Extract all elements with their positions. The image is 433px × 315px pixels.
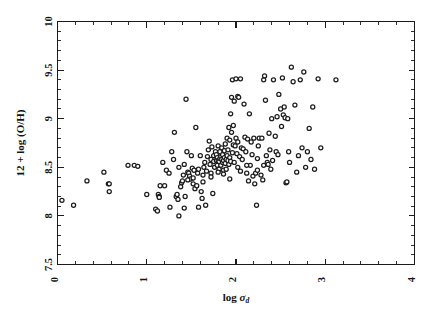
data-point <box>236 165 240 169</box>
y-tick-label: 8.5 <box>43 161 54 174</box>
data-point <box>260 136 264 140</box>
data-point <box>221 172 225 176</box>
data-point <box>158 184 162 188</box>
data-point <box>238 169 242 173</box>
data-point <box>279 124 283 128</box>
data-point <box>183 194 187 198</box>
data-point <box>229 95 233 99</box>
data-point <box>107 182 111 186</box>
data-point <box>334 78 338 82</box>
data-point <box>72 203 76 207</box>
data-point <box>185 150 189 154</box>
data-point <box>176 197 180 201</box>
data-point <box>234 77 238 81</box>
data-point <box>296 154 300 158</box>
data-point <box>189 154 193 158</box>
data-point <box>280 76 284 80</box>
data-point <box>228 177 232 181</box>
data-point <box>177 214 181 218</box>
y-tick-label: 9.5 <box>43 64 54 77</box>
data-point <box>199 190 203 194</box>
scatter-plot-figure: 012347.588.599.510log σd12 + log (O/H) <box>0 0 433 315</box>
data-point <box>262 163 266 167</box>
data-point <box>202 165 206 169</box>
data-point <box>227 125 231 129</box>
data-point <box>171 157 175 161</box>
data-point <box>289 65 293 69</box>
data-point <box>216 170 220 174</box>
data-point <box>167 171 171 175</box>
data-point <box>253 182 257 186</box>
data-point <box>319 146 323 150</box>
y-tick-label: 7.5 <box>43 258 54 271</box>
data-point <box>264 154 268 158</box>
data-point <box>195 184 199 188</box>
data-point <box>155 209 159 213</box>
data-point <box>230 151 234 155</box>
data-point <box>307 126 311 130</box>
data-point <box>126 163 130 167</box>
data-point <box>237 95 241 99</box>
data-point <box>184 97 188 101</box>
data-point <box>172 130 176 134</box>
data-point <box>177 165 181 169</box>
data-point <box>268 148 272 152</box>
data-point <box>181 173 185 177</box>
data-point <box>286 117 290 121</box>
data-point <box>309 157 313 161</box>
data-point <box>295 170 299 174</box>
data-point <box>182 206 186 210</box>
data-point <box>261 178 265 182</box>
data-point <box>207 139 211 143</box>
data-point <box>287 150 291 154</box>
data-point <box>229 130 233 134</box>
data-point <box>271 158 275 162</box>
x-tick-label: 3 <box>316 277 327 282</box>
data-point <box>245 171 249 175</box>
data-point <box>198 154 202 158</box>
data-point <box>238 77 242 81</box>
data-point <box>252 136 256 140</box>
data-point <box>255 157 259 161</box>
data-point <box>266 162 270 166</box>
data-point <box>312 167 316 171</box>
data-point <box>209 175 213 179</box>
data-point <box>85 179 89 183</box>
data-point <box>247 112 251 116</box>
data-point <box>211 191 215 195</box>
data-point <box>201 180 205 184</box>
data-point <box>228 138 232 142</box>
data-point <box>254 203 258 207</box>
data-point <box>191 176 195 180</box>
data-point <box>282 105 286 109</box>
data-point <box>277 92 281 96</box>
plot-canvas: 012347.588.599.510log σd12 + log (O/H) <box>0 0 433 315</box>
data-point <box>182 162 186 166</box>
data-point <box>236 140 240 144</box>
data-point <box>276 153 280 157</box>
data-point <box>107 190 111 194</box>
x-tick-label: 4 <box>406 276 417 282</box>
data-point <box>224 167 228 171</box>
data-point <box>291 80 295 84</box>
data-point <box>244 150 248 154</box>
data-point <box>203 160 207 164</box>
data-point <box>240 157 244 161</box>
data-point <box>194 125 198 129</box>
data-point <box>285 180 289 184</box>
data-point <box>223 142 227 146</box>
data-point <box>311 105 315 109</box>
data-point <box>270 117 274 121</box>
data-point <box>263 74 267 78</box>
data-point <box>229 112 233 116</box>
data-point <box>200 196 204 200</box>
data-point <box>256 144 260 148</box>
x-axis-title: log σd <box>223 291 250 306</box>
x-tick-label: 0 <box>49 277 60 282</box>
data-point <box>271 78 275 82</box>
data-point <box>210 145 214 149</box>
data-point <box>232 160 236 164</box>
data-point <box>233 144 237 148</box>
data-point <box>226 148 230 152</box>
data-point <box>255 168 259 172</box>
